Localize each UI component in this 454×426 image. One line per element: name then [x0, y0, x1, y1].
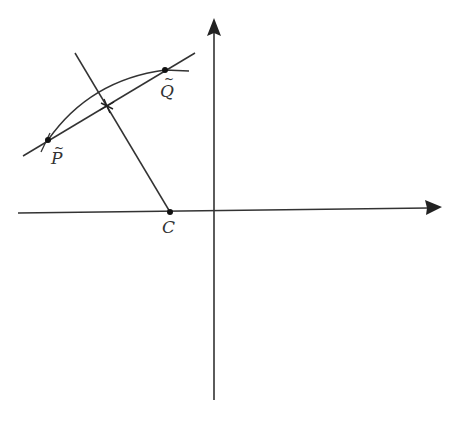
label-q: Q: [160, 81, 174, 101]
diagram-svg: ~ P ~ Q C: [0, 0, 454, 426]
x-axis-arrow-icon: [425, 200, 442, 215]
point-c: [167, 209, 173, 215]
label-c: C: [162, 217, 175, 237]
diagram-canvas: ~ P ~ Q C: [0, 0, 454, 426]
x-axis: [18, 208, 428, 213]
label-p: P: [50, 148, 63, 168]
point-p: [45, 137, 51, 143]
midpoint-marker-icon: [100, 99, 114, 113]
